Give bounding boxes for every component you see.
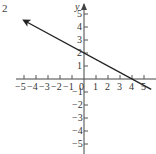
x-tick-label: −2 [51,82,62,92]
y-tick-label: 4 [77,22,82,32]
y-tick-label: −3 [72,113,83,123]
y-tick-label: −4 [72,126,83,136]
y-tick-label: −5 [72,139,83,149]
x-tick-label: 5 [141,82,146,92]
x-tick-label: 2 [105,82,110,92]
y-tick-label: −1 [72,87,83,97]
x-tick-label: 1 [93,82,98,92]
x-tick-label: 4 [129,82,134,92]
x-tick-label: −5 [15,82,26,92]
y-tick-label: 1 [77,61,82,71]
y-tick-label: 3 [77,35,82,45]
y-axis-label: y [75,2,79,12]
x-tick-label: −4 [27,82,38,92]
y-tick-label: 2 [77,48,82,58]
y-tick-label: −2 [72,100,83,110]
x-tick-label: 3 [117,82,122,92]
x-tick-label: −3 [39,82,50,92]
